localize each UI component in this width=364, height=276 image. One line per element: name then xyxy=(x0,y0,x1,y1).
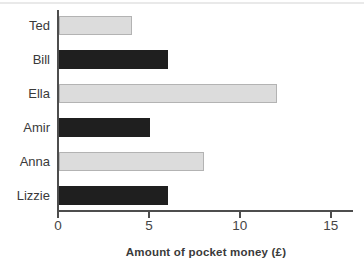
x-tick-label-15: 15 xyxy=(316,218,346,233)
x-axis-title: Amount of pocket money (£) xyxy=(59,246,353,258)
x-axis-line xyxy=(57,210,353,212)
bar-amir xyxy=(59,118,150,137)
bar-bill xyxy=(59,50,168,69)
bar-ted xyxy=(59,16,132,35)
y-axis-line xyxy=(57,10,59,211)
bar-lizzie xyxy=(59,186,168,205)
bar-ella xyxy=(59,84,277,103)
category-label-anna: Anna xyxy=(0,152,50,172)
bar-anna xyxy=(59,152,204,171)
x-tick-label-10: 10 xyxy=(225,218,255,233)
category-label-bill: Bill xyxy=(0,50,50,70)
pocket-money-chart-screenshot: TedBillEllaAmirAnnaLizzie 051015 Amount … xyxy=(0,0,364,276)
category-label-lizzie: Lizzie xyxy=(0,186,50,206)
x-tick-label-5: 5 xyxy=(134,218,164,233)
x-tick-label-0: 0 xyxy=(43,218,73,233)
category-label-ted: Ted xyxy=(0,16,50,36)
category-label-ella: Ella xyxy=(0,84,50,104)
bar-chart: TedBillEllaAmirAnnaLizzie 051015 Amount … xyxy=(0,0,364,276)
category-label-amir: Amir xyxy=(0,118,50,138)
